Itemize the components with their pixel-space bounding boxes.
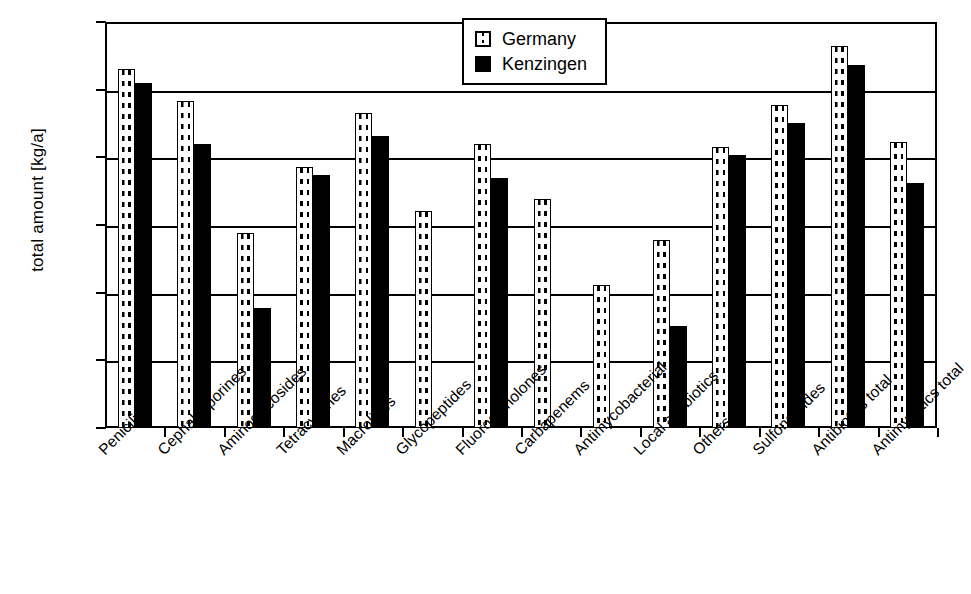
x-axis-tick-mark [937,428,939,437]
bar-chart: total amount [kg/a] 11010010001000010000… [0,0,971,594]
gridline [107,91,935,93]
legend-item-germany: Germany [475,26,587,51]
legend-label-germany: Germany [502,30,576,48]
y-axis-tick-mark [96,21,106,23]
y-axis-tick-mark [96,427,106,429]
gridline [107,158,935,160]
legend-swatch-germany-icon [475,31,491,47]
legend-item-kenzingen: Kenzingen [475,51,587,76]
legend: Germany Kenzingen [462,18,607,85]
y-axis-tick-mark [96,359,106,361]
gridline [107,294,935,296]
legend-swatch-kenzingen-icon [475,56,491,72]
y-axis-tick-mark [96,156,106,158]
y-axis-tick-mark [96,292,106,294]
y-axis-tick-mark [96,224,106,226]
gridline [107,361,935,363]
gridline [107,226,935,228]
legend-label-kenzingen: Kenzingen [502,55,587,73]
y-axis-tick-mark [96,89,106,91]
y-axis-title: total amount [kg/a] [28,90,48,310]
